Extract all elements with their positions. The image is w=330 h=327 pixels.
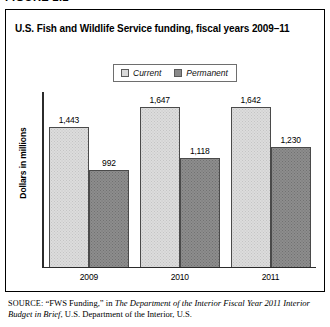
legend-swatch-current [121,69,129,77]
chart-panel: U.S. Fish and Wildlife Service funding, … [5,9,325,292]
bar-group-2010: 1,647 1,118 [140,92,220,267]
figure-number: FIGURE 2.2 [5,0,69,3]
bar-2011-permanent [271,147,311,266]
legend-label-permanent: Permanent [186,68,228,78]
bar-2010-current [140,107,180,267]
source-kicker: SOURCE: [8,299,43,308]
chart-legend: Current Permanent [113,64,237,82]
bar-group-2011: 1,642 1,230 [231,92,311,267]
bar-value-2010-current: 1,647 [150,95,170,105]
bar-wrap-2009-permanent: 992 [89,92,129,267]
x-axis-labels: 2009 2010 2011 [44,272,317,282]
bar-value-2009-permanent: 992 [102,158,116,168]
bar-wrap-2010-permanent: 1,118 [180,92,220,267]
bar-value-2011-current: 1,642 [240,95,260,105]
bar-value-2010-permanent: 1,118 [190,146,210,156]
x-label-2009: 2009 [46,272,132,282]
bar-group-2009: 1,443 992 [49,92,129,267]
bar-wrap-2010-current: 1,647 [140,92,180,267]
bar-groups: 1,443 992 1,647 1,118 [44,92,317,267]
source-text-2: , U.S. Department of the Interior, U.S. [61,309,192,319]
bar-2010-permanent [180,158,220,266]
bar-2009-current [49,127,89,267]
bar-value-2011-permanent: 1,230 [280,135,300,145]
bar-wrap-2011-current: 1,642 [231,92,271,267]
bar-2009-permanent [89,170,129,266]
source-note: SOURCE: “FWS Funding,” in The Department… [8,298,324,320]
bar-wrap-2009-current: 1,443 [49,92,89,267]
source-text-1: “FWS Funding,” in [43,298,114,308]
legend-swatch-permanent [174,69,182,77]
bar-wrap-2011-permanent: 1,230 [271,92,311,267]
x-label-2010: 2010 [137,272,223,282]
chart-title: U.S. Fish and Wildlife Service funding, … [15,23,290,34]
legend-label-current: Current [133,68,161,78]
plot-area: 1,443 992 1,647 1,118 [42,92,316,268]
legend-item-permanent: Permanent [174,68,228,78]
x-axis-line [42,267,316,269]
y-axis-title: Dollars in millions [18,115,28,211]
x-label-2011: 2011 [228,272,314,282]
bar-value-2009-current: 1,443 [59,115,79,125]
bar-2011-current [231,107,271,266]
figure-container: FIGURE 2.2 U.S. Fish and Wildlife Servic… [0,0,330,327]
legend-item-current: Current [121,68,161,78]
